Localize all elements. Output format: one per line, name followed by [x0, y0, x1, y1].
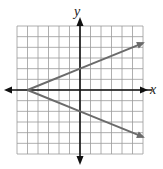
- y-axis-down-arrow-icon: [77, 156, 84, 165]
- lower-ray: [28, 90, 144, 137]
- y-axis-label: y: [72, 4, 81, 19]
- x-axis-right-arrow-icon: [140, 87, 148, 94]
- upper-ray: [28, 43, 144, 90]
- x-axis-label: x: [149, 82, 157, 97]
- graph: y x: [0, 0, 163, 169]
- axes: [4, 17, 152, 165]
- x-axis-left-arrow-icon: [4, 87, 12, 94]
